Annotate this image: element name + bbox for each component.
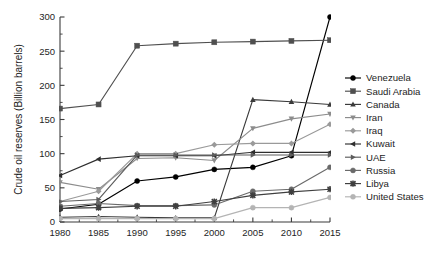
data-point-marker xyxy=(288,140,294,146)
legend-item-kuwait[interactable]: Kuwait xyxy=(345,138,395,149)
legend-item-uae[interactable]: UAE xyxy=(345,152,386,163)
legend-label: Libya xyxy=(366,178,390,189)
data-point-marker xyxy=(250,205,255,210)
data-point-marker xyxy=(96,156,101,162)
legend-label: Venezuela xyxy=(366,72,411,83)
data-point-marker xyxy=(351,168,356,173)
legend-label: Kuwait xyxy=(366,138,395,149)
data-point-marker xyxy=(211,198,217,204)
series-venezuela xyxy=(58,15,333,212)
x-tick-label: 1990 xyxy=(127,227,148,238)
x-tick-label: 1995 xyxy=(165,227,186,238)
data-point-marker xyxy=(57,205,63,211)
data-point-marker xyxy=(212,216,217,221)
data-point-marker xyxy=(250,192,256,198)
y-tick-label: 100 xyxy=(39,148,55,159)
data-point-marker xyxy=(95,205,101,211)
y-tick-label: 250 xyxy=(39,46,55,57)
data-point-marker xyxy=(328,195,333,200)
line-chart: 0501001502002503001980198519901995200020… xyxy=(0,0,438,278)
data-point-marker xyxy=(135,179,140,184)
data-point-marker xyxy=(351,76,356,81)
data-point-marker xyxy=(212,167,217,172)
data-point-marker xyxy=(173,174,178,179)
chart-container: 0501001502002503001980198519901995200020… xyxy=(0,0,438,278)
y-tick-label: 0 xyxy=(50,216,55,227)
x-tick-label: 1985 xyxy=(88,227,109,238)
data-point-marker xyxy=(328,15,333,20)
data-point-marker xyxy=(134,203,140,209)
data-point-marker xyxy=(173,41,178,46)
y-axis-label: Crude oil reserves (Billion barrels) xyxy=(13,44,24,195)
data-point-marker xyxy=(250,140,256,146)
plot-area xyxy=(57,15,333,222)
y-tick-label: 50 xyxy=(44,182,55,193)
data-point-marker xyxy=(58,106,63,111)
data-point-marker xyxy=(289,38,294,43)
data-point-marker xyxy=(288,189,294,195)
legend-item-iran[interactable]: Iran xyxy=(345,112,383,123)
data-point-marker xyxy=(211,142,217,148)
legend-item-russia[interactable]: Russia xyxy=(345,165,396,176)
data-point-marker xyxy=(351,89,356,94)
data-point-marker xyxy=(351,154,356,160)
x-tick-label: 2000 xyxy=(204,227,225,238)
series-line xyxy=(60,114,330,189)
legend-label: Saudi Arabia xyxy=(366,86,421,97)
x-tick-label: 1980 xyxy=(49,227,70,238)
data-point-marker xyxy=(173,203,179,209)
data-point-marker xyxy=(250,39,255,44)
x-tick-label: 2010 xyxy=(281,227,302,238)
legend-item-venezuela[interactable]: Venezuela xyxy=(345,72,411,83)
data-point-marker xyxy=(250,165,255,170)
legend-label: United States xyxy=(366,191,424,202)
data-point-marker xyxy=(96,216,101,221)
series-line xyxy=(60,40,330,108)
y-tick-label: 150 xyxy=(39,114,55,125)
data-point-marker xyxy=(350,128,356,134)
data-point-marker xyxy=(58,216,63,221)
data-point-marker xyxy=(289,205,294,210)
x-tick-label: 2005 xyxy=(242,227,263,238)
data-point-marker xyxy=(351,194,356,199)
legend-item-canada[interactable]: Canada xyxy=(345,99,400,110)
data-point-marker xyxy=(350,141,355,147)
data-point-marker xyxy=(212,40,217,45)
legend-label: Russia xyxy=(366,165,396,176)
data-point-marker xyxy=(327,121,333,127)
data-point-marker xyxy=(328,165,333,170)
data-point-marker xyxy=(135,43,140,48)
legend-label: Canada xyxy=(366,99,400,110)
data-point-marker xyxy=(350,181,356,187)
data-point-marker xyxy=(328,38,333,43)
series-line xyxy=(60,17,330,209)
legend-item-united-states[interactable]: United States xyxy=(345,191,424,202)
x-tick-label: 2015 xyxy=(319,227,340,238)
legend-label: UAE xyxy=(366,152,386,163)
legend-item-libya[interactable]: Libya xyxy=(345,178,390,189)
legend-item-saudi-arabia[interactable]: Saudi Arabia xyxy=(345,86,421,97)
y-tick-label: 200 xyxy=(39,80,55,91)
legend: VenezuelaSaudi ArabiaCanadaIranIraqKuwai… xyxy=(345,72,424,202)
data-point-marker xyxy=(96,102,101,107)
data-point-marker xyxy=(327,186,333,192)
series-russia xyxy=(58,165,333,209)
legend-item-iraq[interactable]: Iraq xyxy=(345,125,383,136)
legend-label: Iran xyxy=(366,112,383,123)
data-point-marker xyxy=(173,216,178,221)
legend-label: Iraq xyxy=(366,125,383,136)
y-tick-label: 300 xyxy=(39,11,55,22)
data-point-marker xyxy=(135,216,140,221)
